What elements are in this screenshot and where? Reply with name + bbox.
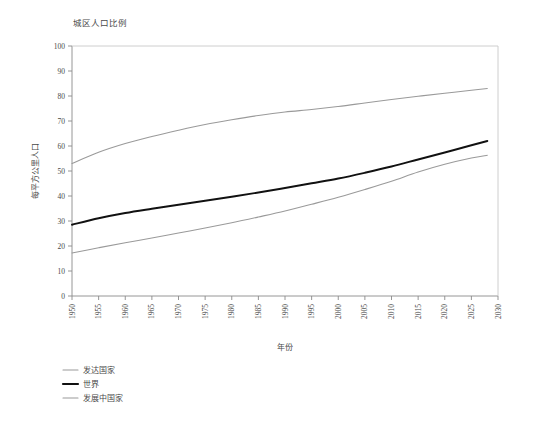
legend-label-1: 世界 (83, 379, 99, 389)
chart-title: 城区人口比例 (73, 18, 127, 28)
x-tick-label: 1960 (121, 304, 130, 319)
y-tick-label: 30 (58, 217, 66, 226)
y-tick-label: 20 (58, 242, 66, 251)
y-tick-label: 60 (58, 142, 66, 151)
x-axis-title: 年份 (277, 342, 293, 352)
x-tick-label: 2000 (334, 304, 343, 319)
x-tick-label: 2020 (440, 304, 449, 319)
x-tick-label: 1990 (281, 304, 290, 319)
x-tick-label: 1970 (174, 304, 183, 319)
y-tick-label: 80 (58, 92, 66, 101)
y-axis-title: 每平方公里人口 (30, 143, 40, 199)
y-tick-label: 40 (58, 192, 66, 201)
x-tick-label: 1955 (94, 304, 103, 319)
y-tick-label: 90 (58, 67, 66, 76)
x-tick-label: 1980 (227, 304, 236, 319)
y-tick-label: 100 (54, 42, 66, 51)
x-tick-label: 2015 (414, 304, 423, 319)
chart-figure: 城区人口比例 0102030405060708090100 1950195519… (0, 0, 533, 422)
legend-label-0: 发达国家 (83, 365, 115, 375)
line-chart: 城区人口比例 0102030405060708090100 1950195519… (0, 0, 533, 422)
x-tick-label: 1985 (254, 304, 263, 319)
x-tick-label: 2030 (494, 304, 503, 319)
x-tick-label: 1975 (201, 304, 210, 319)
x-tick-label: 2005 (360, 304, 369, 319)
y-tick-label: 0 (61, 292, 65, 301)
x-tick-label: 1950 (68, 304, 77, 319)
y-tick-label: 50 (58, 167, 66, 176)
figure-background (0, 0, 533, 422)
x-tick-label: 1965 (147, 304, 156, 319)
x-tick-label: 2010 (387, 304, 396, 319)
x-tick-label: 1995 (307, 304, 316, 319)
y-tick-label: 70 (58, 117, 66, 126)
x-tick-label: 2025 (467, 304, 476, 319)
legend-label-2: 发展中国家 (83, 393, 123, 403)
y-tick-label: 10 (58, 267, 66, 276)
